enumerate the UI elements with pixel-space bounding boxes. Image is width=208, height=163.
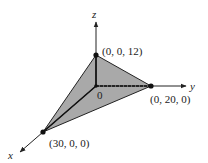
x-intercept-label: (30, 0, 0)	[49, 137, 90, 150]
x-axis-label: x	[7, 149, 13, 161]
point-x-intercept	[40, 129, 45, 134]
z-axis-label: z	[91, 8, 97, 20]
point-y-intercept	[148, 83, 153, 88]
origin-point	[94, 84, 98, 88]
z-intercept-label: (0, 0, 12)	[102, 45, 143, 58]
y-axis-label: y	[189, 80, 195, 92]
diagram-canvas: z y x 0 (0, 0, 12) (0, 20, 0) (30, 0, 0)	[0, 0, 208, 163]
point-z-intercept	[93, 52, 98, 57]
origin-label: 0	[97, 89, 103, 101]
y-intercept-label: (0, 20, 0)	[150, 93, 191, 106]
